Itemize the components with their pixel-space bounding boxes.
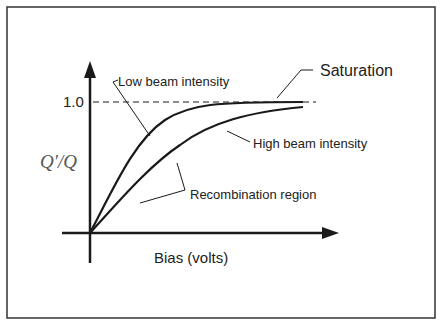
- y-axis-label: Q′/Q: [40, 151, 77, 172]
- y-axis-arrow-icon: [84, 61, 96, 78]
- diagram-canvas: 1.0 Q′/Q Bias (volts) Low beam intensity…: [0, 0, 442, 326]
- low-intensity-curve: [90, 102, 303, 233]
- high-intensity-label: High beam intensity: [253, 136, 368, 151]
- saturation-leader: [277, 70, 313, 98]
- high-intensity-curve: [90, 107, 303, 233]
- y-tick-1: 1.0: [63, 93, 84, 110]
- x-axis-label: Bias (volts): [154, 249, 228, 266]
- recombination-label: Recombination region: [190, 187, 316, 202]
- recombination-leader: [140, 163, 185, 203]
- high-leader: [227, 131, 250, 142]
- x-axis-arrow-icon: [322, 227, 339, 239]
- low-intensity-label: Low beam intensity: [118, 74, 230, 89]
- saturation-label: Saturation: [320, 62, 393, 79]
